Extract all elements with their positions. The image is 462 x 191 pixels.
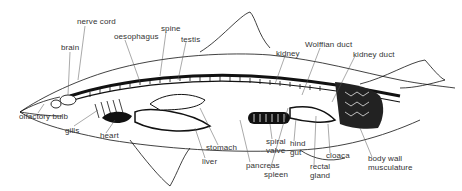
stomach-shape — [150, 94, 205, 110]
body-wall-musculature-shape — [335, 82, 383, 129]
label-hind-gut-2: gut — [290, 148, 301, 157]
label-spine: spine — [161, 24, 181, 33]
liver-shape — [135, 110, 210, 131]
label-hind-gut-1: hind — [290, 139, 306, 148]
label-kidney: kidney — [276, 49, 300, 58]
label-oesophagus: oesophagus — [114, 32, 159, 41]
label-heart: heart — [100, 131, 119, 140]
label-spiral-valve-2: valve — [266, 146, 285, 155]
label-nerve-cord: nerve cord — [77, 17, 116, 26]
label-brain: brain — [61, 43, 79, 52]
label-kidney-duct: kidney duct — [353, 50, 395, 59]
label-pancreas: pancreas — [246, 161, 280, 170]
dorsal-fin — [200, 12, 270, 52]
label-stomach: stomach — [206, 143, 237, 152]
label-liver: liver — [202, 157, 217, 166]
heart-shape — [102, 112, 132, 123]
brain-shape — [51, 95, 76, 108]
label-rectal-gland-1: rectal — [310, 162, 330, 171]
label-rectal-gland-2: gland — [310, 171, 330, 180]
label-spiral-valve-1: spiral — [266, 137, 286, 146]
label-testis: testis — [181, 35, 200, 44]
body-outline — [20, 54, 455, 112]
label-gills: gills — [65, 126, 79, 135]
hind-gut-shape — [290, 107, 335, 122]
label-body-wall-1: body wall — [368, 154, 402, 163]
label-cloaca: cloaca — [326, 151, 350, 160]
label-wolffian-duct: Wolffian duct — [305, 40, 352, 49]
label-olfactory-bulb: olfactory bulb — [19, 112, 68, 121]
label-spleen: spleen — [264, 170, 288, 179]
label-body-wall-2: musculature — [368, 163, 413, 172]
